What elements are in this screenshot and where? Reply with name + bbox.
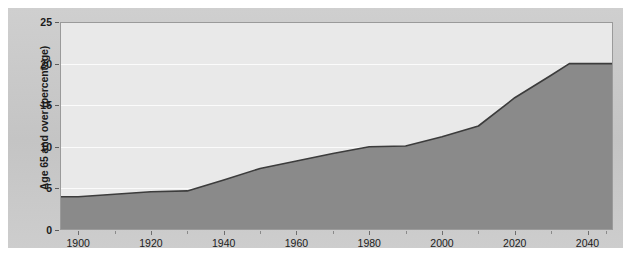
x-axis-tick-label: 1900: [48, 237, 108, 250]
y-axis-tick-mark: [55, 22, 59, 23]
x-axis-tick-label: 1940: [194, 237, 254, 250]
x-axis-tick-mark: [224, 231, 225, 235]
plot-area: [60, 22, 613, 230]
x-axis-tick-label: 1980: [339, 237, 399, 250]
y-axis-tick-label: 20: [12, 58, 52, 70]
y-axis-tick-label: 5: [12, 182, 52, 194]
x-axis-minor-tick-mark: [187, 231, 188, 234]
x-axis-tick-label: 1960: [266, 237, 326, 250]
chart-figure: Age 65 and over (percentage) 0510152025 …: [0, 0, 631, 259]
y-axis-tick-mark: [55, 188, 59, 189]
x-axis-minor-tick-mark: [551, 231, 552, 234]
x-axis-minor-tick-mark: [260, 231, 261, 234]
x-axis-tick-mark: [588, 231, 589, 235]
x-axis-minor-tick-mark: [406, 231, 407, 234]
x-axis-tick-label: 2020: [485, 237, 545, 250]
y-axis-tick-label: 15: [12, 99, 52, 111]
area-series: [60, 22, 613, 230]
x-axis-minor-tick-mark: [333, 231, 334, 234]
x-axis-tick-mark: [151, 231, 152, 235]
x-axis-minor-tick-mark: [478, 231, 479, 234]
x-axis-minor-tick-mark: [115, 231, 116, 234]
y-axis-tick-mark: [55, 230, 59, 231]
x-axis-tick-label: 1920: [121, 237, 181, 250]
x-axis-minor-tick-mark: [606, 231, 607, 234]
x-axis-tick-mark: [369, 231, 370, 235]
y-axis-tick-mark: [55, 147, 59, 148]
y-axis-tick-mark: [55, 105, 59, 106]
y-axis-tick-label: 0: [12, 224, 52, 236]
x-axis-tick-label: 2040: [558, 237, 618, 250]
y-axis-tick-label: 25: [12, 16, 52, 28]
x-axis-tick-mark: [515, 231, 516, 235]
y-axis-tick-mark: [55, 64, 59, 65]
x-axis-tick-mark: [296, 231, 297, 235]
x-axis-tick-label: 2000: [412, 237, 472, 250]
x-axis-tick-mark: [78, 231, 79, 235]
x-axis-tick-mark: [442, 231, 443, 235]
y-axis-tick-label: 10: [12, 141, 52, 153]
